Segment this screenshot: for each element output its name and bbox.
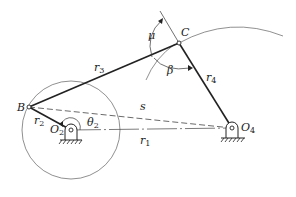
label-r1: r1	[140, 135, 150, 148]
coupler-curve	[179, 27, 283, 43]
label-B: B	[17, 102, 25, 113]
label-O2: O2	[50, 124, 64, 137]
rocker-r4	[179, 43, 232, 128]
four-bar-linkage-diagram: B C O2 O4 r1 r2 r3 r4 s θ2 μ β	[0, 0, 296, 197]
coupler-r3	[29, 43, 179, 107]
label-r3: r3	[94, 62, 104, 75]
joint-O4	[230, 126, 234, 130]
label-mu: μ	[148, 30, 155, 41]
label-O4: O4	[241, 122, 255, 135]
label-C: C	[181, 27, 189, 38]
joint-C	[177, 41, 181, 45]
label-theta2: θ2	[87, 117, 99, 130]
beta-arrow-icon	[188, 65, 193, 71]
label-s: s	[140, 101, 146, 112]
label-r4: r4	[206, 72, 216, 85]
joint-O2	[69, 128, 73, 132]
rocker-extension-line	[160, 11, 179, 43]
joint-B	[27, 105, 31, 109]
label-beta: β	[167, 65, 173, 76]
label-r2: r2	[34, 115, 44, 128]
